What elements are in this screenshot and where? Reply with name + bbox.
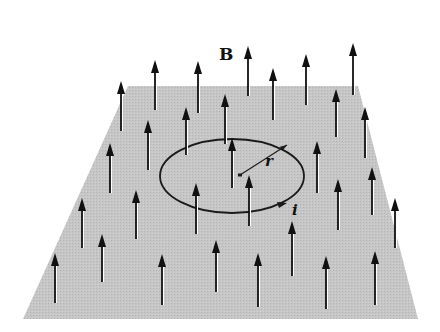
arrowhead-icon — [391, 198, 399, 211]
magnetic-field-diagram: B r i — [0, 0, 440, 332]
radius-label-r: r — [265, 152, 274, 170]
current-label-i: i — [292, 201, 298, 219]
field-label-B: B — [219, 44, 233, 64]
arrowhead-icon — [151, 60, 159, 73]
arrowhead-icon — [302, 54, 310, 67]
arrowhead-icon — [117, 81, 125, 94]
arrowhead-icon — [269, 68, 277, 81]
arrowhead-icon — [244, 46, 252, 59]
diagram-canvas: B r i — [0, 0, 440, 332]
arrowhead-icon — [194, 61, 202, 74]
arrowhead-icon — [349, 43, 357, 56]
loop-center-dot — [238, 174, 242, 177]
